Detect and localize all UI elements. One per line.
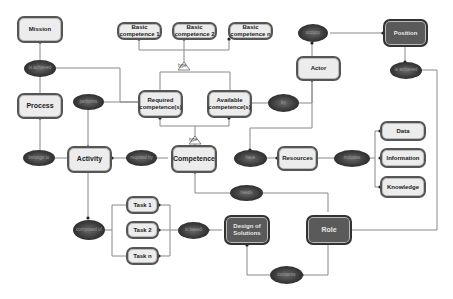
entity-task-n[interactable]: Task n bbox=[126, 247, 159, 265]
entity-information[interactable]: Information bbox=[380, 148, 426, 168]
relation-is-achieved-position[interactable]: is achieved bbox=[390, 62, 422, 79]
relation-required-by[interactable]: required by bbox=[126, 150, 157, 166]
relation-concerns[interactable]: concerns bbox=[270, 266, 303, 284]
relation-composed-of[interactable]: composed of bbox=[73, 220, 105, 240]
entity-position[interactable]: Position bbox=[383, 19, 428, 47]
entity-process[interactable]: Process bbox=[17, 93, 63, 119]
relation-have[interactable]: have bbox=[234, 150, 267, 167]
entity-design-of-solutions[interactable]: Design of Solutions bbox=[224, 215, 270, 245]
entity-required-competence[interactable]: Required competence(s) bbox=[138, 90, 183, 118]
entity-basic-competence-1[interactable]: Basic competence 1 bbox=[117, 22, 162, 40]
relation-includes-resources[interactable]: includes bbox=[334, 150, 370, 167]
entity-available-competence[interactable]: Available competence(s) bbox=[207, 90, 252, 118]
entity-role[interactable]: Role bbox=[306, 215, 352, 245]
entity-basic-competence-2[interactable]: Basic competence 2 bbox=[172, 22, 217, 40]
type-label-top: type bbox=[178, 63, 187, 68]
relation-needs[interactable]: needs bbox=[230, 185, 263, 201]
relation-by[interactable]: by bbox=[268, 94, 299, 112]
relation-belongs-to[interactable]: belongs to bbox=[23, 150, 55, 166]
entity-resources[interactable]: Resources bbox=[277, 146, 318, 171]
relation-is-based[interactable]: is based bbox=[178, 222, 209, 239]
relation-occupy[interactable]: occupy bbox=[298, 24, 328, 42]
entity-competence[interactable]: Competence bbox=[171, 145, 217, 173]
entity-knowledge[interactable]: Knowledge bbox=[380, 176, 426, 198]
entity-basic-competence-n[interactable]: Basic competence n bbox=[228, 22, 273, 40]
entity-mission[interactable]: Mission bbox=[17, 16, 63, 43]
relation-is-achieved-mission[interactable]: is achieved bbox=[24, 60, 56, 77]
entity-actor[interactable]: Actor bbox=[296, 56, 341, 81]
entity-data[interactable]: Data bbox=[380, 121, 426, 141]
relation-performs[interactable]: performs bbox=[73, 94, 104, 110]
type-label-bottom: type bbox=[189, 137, 198, 142]
entity-task-1[interactable]: Task 1 bbox=[126, 196, 159, 214]
entity-activity[interactable]: Activity bbox=[67, 146, 112, 173]
entity-task-2[interactable]: Task 2 bbox=[126, 221, 159, 239]
